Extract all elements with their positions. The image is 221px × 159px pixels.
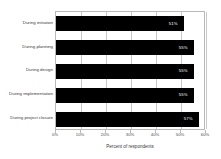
bar[interactable]: 55% xyxy=(56,64,194,79)
bars-layer: 51%55%55%55%57% xyxy=(56,12,204,129)
bar[interactable]: 51% xyxy=(56,16,184,31)
category-label: During implementation xyxy=(0,92,53,96)
x-tick-label: 0% xyxy=(43,133,67,137)
bar-value-label: 55% xyxy=(179,69,188,73)
plot-area: 51%55%55%55%57% xyxy=(55,11,205,130)
x-tick-label: 60% xyxy=(193,133,217,137)
x-tick-label: 40% xyxy=(143,133,167,137)
gridline xyxy=(206,12,207,129)
bar[interactable]: 57% xyxy=(56,112,199,127)
x-tick-label: 10% xyxy=(68,133,92,137)
category-label: During design xyxy=(0,68,53,72)
category-label: During project closure xyxy=(0,116,53,120)
bar[interactable]: 55% xyxy=(56,88,194,103)
x-axis-title: Percent of respondents xyxy=(55,145,205,150)
x-tick-label: 20% xyxy=(93,133,117,137)
bar-chart: 51%55%55%55%57% During initiationDuring … xyxy=(0,0,221,159)
bar[interactable]: 55% xyxy=(56,40,194,55)
x-tick-label: 50% xyxy=(168,133,192,137)
category-label: During planning xyxy=(0,45,53,49)
bar-value-label: 57% xyxy=(184,117,193,121)
category-label: During initiation xyxy=(0,21,53,25)
bar-row: 55% xyxy=(56,60,204,84)
x-tick-label: 30% xyxy=(118,133,142,137)
bar-row: 51% xyxy=(56,12,204,36)
bar-row: 57% xyxy=(56,107,204,131)
bar-row: 55% xyxy=(56,36,204,60)
bar-value-label: 55% xyxy=(179,93,188,97)
bar-value-label: 51% xyxy=(169,22,178,26)
bar-row: 55% xyxy=(56,83,204,107)
bar-value-label: 55% xyxy=(179,46,188,50)
